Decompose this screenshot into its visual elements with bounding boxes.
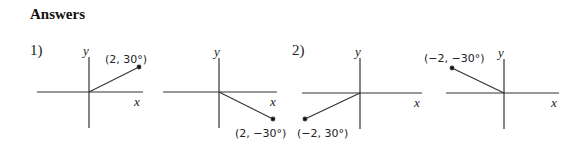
point-label: (2, −30°) [235, 127, 286, 140]
point-label: (−2, −30°) [424, 52, 485, 65]
x-axis-label: x [413, 95, 420, 110]
y-axis-label: y [212, 44, 220, 59]
point-marker [303, 117, 307, 121]
radius-segment [219, 92, 273, 119]
graph-1 [37, 57, 143, 128]
y-axis-label: y [496, 45, 504, 60]
point-marker [450, 66, 454, 70]
radius-segment [305, 93, 360, 119]
graph-3 [302, 58, 422, 129]
point-marker [271, 117, 275, 121]
polar-point-graphs: y x (2, 30°) y x (2, −30°) y x (−2, 30°)… [0, 0, 588, 143]
point-label: (2, 30°) [105, 53, 147, 66]
y-axis-label: y [353, 44, 361, 59]
graph-2 [163, 58, 277, 128]
y-axis-label: y [81, 43, 89, 58]
graph-4 [446, 59, 559, 129]
x-axis-label: x [133, 94, 140, 109]
x-axis-label: x [550, 95, 557, 110]
x-axis-label: x [269, 94, 276, 109]
radius-segment [452, 68, 504, 93]
radius-segment [89, 67, 139, 92]
point-label: (−2, 30°) [297, 127, 348, 140]
